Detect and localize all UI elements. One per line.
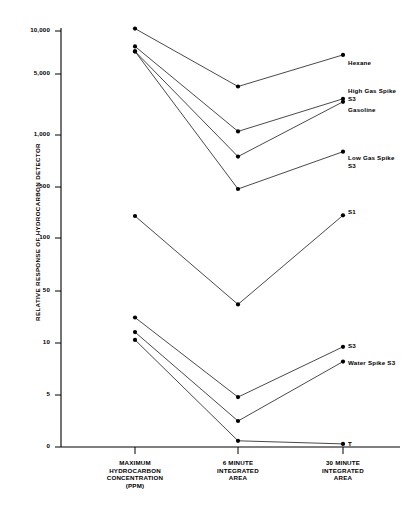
data-point-water-spike-s3-1	[236, 419, 240, 423]
data-point-s1-0	[133, 214, 137, 218]
data-point-hexane-2	[341, 53, 345, 57]
series-line-t	[135, 340, 343, 444]
data-point-t-0	[133, 338, 137, 342]
data-point-hexane-1	[236, 84, 240, 88]
data-point-water-spike-s3-2	[341, 360, 345, 364]
data-point-low-gas-spike-s3-2	[341, 150, 345, 154]
chart-container: RELATIVE RESPONSE OF HYDROCARBON DETECTO…	[0, 0, 419, 510]
data-point-high-gas-spike-s3-1	[236, 129, 240, 133]
data-point-s1-2	[341, 213, 345, 217]
y-axis-ticks	[55, 31, 61, 447]
data-point-t-2	[341, 442, 345, 446]
series-line-s3	[135, 318, 343, 398]
series-line-hexane	[135, 29, 343, 87]
data-point-t-1	[236, 439, 240, 443]
series-line-high-gas-spike-s3	[135, 46, 343, 131]
data-point-high-gas-spike-s3-0	[133, 44, 137, 48]
series-lines	[135, 29, 343, 444]
data-point-water-spike-s3-0	[133, 330, 137, 334]
series-line-s1	[135, 215, 343, 304]
x-axis-ticks	[135, 447, 343, 454]
data-point-s3-0	[133, 315, 137, 319]
data-point-gasoline-2	[341, 100, 345, 104]
data-point-s1-1	[236, 302, 240, 306]
data-point-low-gas-spike-s3-0	[133, 49, 137, 53]
data-point-hexane-0	[133, 27, 137, 31]
series-markers	[133, 27, 345, 447]
data-point-gasoline-1	[236, 155, 240, 159]
data-point-low-gas-spike-s3-1	[236, 187, 240, 191]
series-line-gasoline	[135, 51, 343, 156]
axis-lines	[61, 28, 400, 447]
plot-area	[0, 0, 419, 510]
data-point-s3-2	[341, 345, 345, 349]
series-line-water-spike-s3	[135, 332, 343, 421]
data-point-s3-1	[236, 395, 240, 399]
